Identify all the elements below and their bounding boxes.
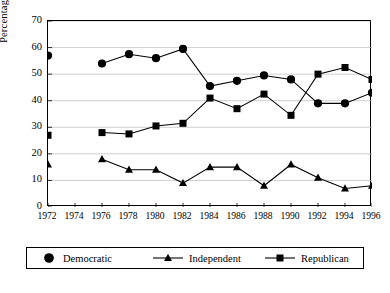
circle-marker — [48, 51, 52, 59]
triangle-icon — [153, 251, 183, 265]
square-marker — [288, 112, 295, 119]
circle-marker — [314, 99, 322, 107]
triangle-marker — [287, 160, 295, 167]
square-marker — [99, 129, 106, 136]
triangle-marker — [152, 166, 160, 173]
square-marker — [180, 120, 187, 127]
y-tick-label: 40 — [16, 95, 42, 106]
x-tick-label: 1978 — [118, 211, 137, 221]
x-tick-label: 1992 — [307, 211, 326, 221]
y-tick-label: 60 — [16, 42, 42, 53]
square-icon — [265, 251, 295, 265]
x-tick-label: 1974 — [64, 211, 83, 221]
plot-area — [47, 20, 371, 206]
series-line — [102, 49, 372, 103]
circle-marker — [233, 77, 241, 85]
circle-marker — [287, 75, 295, 83]
triangle-marker — [179, 179, 187, 186]
legend-label: Democratic — [63, 253, 112, 264]
y-tick-label: 20 — [16, 148, 42, 159]
triangle-marker — [164, 254, 172, 261]
y-tick-label: 30 — [16, 121, 42, 132]
triangle-marker — [368, 182, 372, 189]
square-marker — [153, 122, 160, 129]
triangle-marker — [206, 163, 214, 170]
triangle-marker — [48, 160, 52, 167]
circle-marker — [44, 253, 54, 263]
circle-marker — [152, 54, 160, 62]
square-marker — [261, 91, 268, 98]
x-tick-label: 1986 — [226, 211, 245, 221]
triangle-marker — [314, 174, 322, 181]
triangle-marker — [260, 182, 268, 189]
square-marker — [277, 255, 284, 262]
x-tick-label: 1980 — [145, 211, 164, 221]
circle-marker — [260, 71, 268, 79]
y-tick-label: 10 — [16, 174, 42, 185]
square-marker — [315, 71, 322, 78]
legend-item-democratic[interactable]: Democratic — [27, 251, 139, 265]
legend-item-independent[interactable]: Independent — [139, 251, 251, 265]
x-tick-label: 1984 — [199, 211, 218, 221]
legend-item-republican[interactable]: Republican — [251, 251, 363, 265]
triangle-marker — [233, 163, 241, 170]
series-independent — [48, 155, 372, 191]
x-tick-label: 1988 — [253, 211, 272, 221]
x-tick-label: 1990 — [280, 211, 299, 221]
plot-svg — [48, 21, 372, 207]
circle-marker — [125, 50, 133, 58]
circle-marker — [98, 59, 106, 67]
circle-marker — [341, 99, 349, 107]
circle-marker — [368, 89, 372, 97]
circle-icon — [41, 251, 57, 265]
square-marker — [369, 76, 373, 83]
x-tick-label: 1996 — [361, 211, 380, 221]
square-marker — [126, 130, 133, 137]
legend-label: Republican — [301, 253, 349, 264]
x-tick-label: 1994 — [334, 211, 353, 221]
square-marker — [234, 105, 241, 112]
y-tick-label: 50 — [16, 68, 42, 79]
square-marker — [342, 64, 349, 71]
x-tick-label: 1982 — [172, 211, 191, 221]
circle-marker — [206, 82, 214, 90]
triangle-marker — [98, 155, 106, 162]
x-tick-label: 1976 — [91, 211, 110, 221]
circle-marker — [179, 45, 187, 53]
x-tick-label: 1972 — [37, 211, 56, 221]
square-marker — [207, 95, 214, 102]
y-tick-label: 70 — [16, 15, 42, 26]
x-axis-tick-labels: 1972197419761978198019821984198619881990… — [47, 211, 371, 225]
square-marker — [48, 132, 52, 139]
legend-label: Independent — [189, 253, 241, 264]
chart-figure: Percentage 010203040506070 1972197419761… — [0, 0, 390, 293]
chart-legend: DemocraticIndependentRepublican — [26, 247, 364, 269]
